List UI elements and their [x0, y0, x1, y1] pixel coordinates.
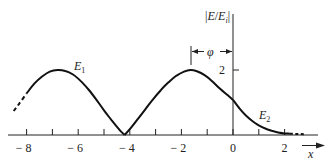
- curve-e1: [27, 70, 233, 135]
- phi-arrowhead-left: [192, 49, 198, 54]
- x-tick-label: − 8: [16, 141, 32, 155]
- y-axis-label: |E/Ei|: [205, 9, 230, 25]
- label-e1: E1: [73, 59, 85, 75]
- x-ticks: [27, 129, 285, 135]
- phi-arrowhead-right: [226, 49, 232, 54]
- x-tick-label: 2: [282, 141, 288, 155]
- field-magnitude-diagram: − 8− 6− 4− 202 2 |E/Ei| E1 E2 φ x: [0, 0, 333, 161]
- y-tick-label-2: 2: [219, 63, 225, 77]
- curve-e1-dashed-start: [14, 93, 27, 111]
- x-tick-labels: − 8− 6− 4− 202: [16, 141, 288, 155]
- phi-label: φ: [207, 45, 214, 59]
- curve-e2-dashed-end: [290, 134, 305, 135]
- x-axis-label: x: [307, 147, 314, 161]
- x-tick-label: − 2: [171, 141, 187, 155]
- x-tick-label: − 4: [119, 141, 135, 155]
- x-tick-label: − 6: [67, 141, 83, 155]
- x-direction-arrowhead: [316, 143, 325, 149]
- x-tick-label: 0: [230, 141, 236, 155]
- label-e2: E2: [258, 108, 270, 124]
